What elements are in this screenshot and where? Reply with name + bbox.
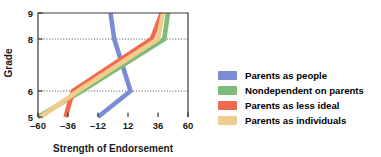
x-axis-ticks: –60–36–12123660 [30,113,193,132]
legend-label-1: Nondependent on parents [245,85,364,96]
legend-swatch-2 [218,101,237,110]
y-axis-ticks: 5689 [28,8,43,123]
legend-label-2: Parents as less ideal [245,100,339,111]
chart-legend: Parents as peopleNondependent on parents… [218,68,378,128]
legend-item-0[interactable]: Parents as people [218,68,378,82]
legend-swatch-0 [218,71,237,80]
x-tick-label-5: 60 [183,120,194,131]
y-tick-label-3: 9 [28,8,33,19]
legend-label-3: Parents as individuals [245,115,346,126]
legend-swatch-3 [218,116,237,125]
y-tick-label-2: 8 [28,34,33,45]
chart-figure: –60–36–12123660 5689 Strength of Endorse… [0,0,381,157]
x-tick-label-2: –12 [90,120,106,131]
x-tick-label-4: 36 [153,120,164,131]
legend-item-1[interactable]: Nondependent on parents [218,83,378,97]
y-tick-label-0: 5 [28,112,34,123]
legend-swatch-1 [218,86,237,95]
series-line-3 [41,13,164,117]
series-lines [38,13,168,117]
legend-item-3[interactable]: Parents as individuals [218,113,378,127]
legend-label-0: Parents as people [245,70,327,81]
y-axis-title: Grade [3,48,14,77]
x-tick-label-1: –36 [60,120,76,131]
series-line-1 [38,13,168,117]
x-axis-title: Strength of Endorsement [53,143,174,154]
x-tick-label-3: 12 [123,120,134,131]
y-tick-label-1: 6 [28,86,33,97]
legend-item-2[interactable]: Parents as less ideal [218,98,378,112]
